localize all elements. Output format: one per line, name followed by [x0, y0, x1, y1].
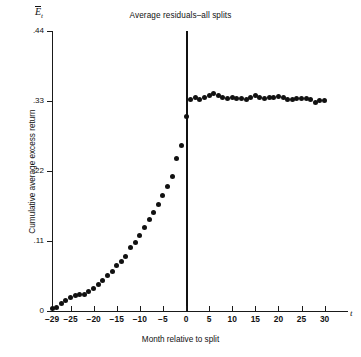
- chart-title: Average residuals–all splits: [0, 11, 361, 20]
- chart-figure: Average residuals–all splits Et 0.11.22.…: [0, 0, 361, 357]
- data-point: [147, 217, 152, 222]
- data-point: [170, 174, 175, 179]
- y-tick-label: .44: [20, 26, 44, 35]
- x-tick-mark: [302, 306, 303, 312]
- data-point: [137, 233, 142, 238]
- data-point: [128, 245, 133, 250]
- x-tick-mark: [71, 306, 72, 312]
- split-event-vertical-line: [186, 31, 188, 312]
- x-axis-line: [52, 311, 348, 312]
- data-point: [91, 286, 96, 291]
- data-point: [179, 143, 184, 148]
- data-point: [123, 254, 128, 259]
- x-tick-mark: [255, 306, 256, 312]
- y-tick-mark: [47, 241, 53, 242]
- x-tick-mark: [186, 306, 187, 312]
- x-tick-mark: [117, 306, 118, 312]
- x-tick-mark: [209, 306, 210, 312]
- x-tick-label: 30: [310, 314, 340, 324]
- data-point: [105, 273, 110, 278]
- y-tick-mark: [47, 171, 53, 172]
- x-tick-mark: [163, 306, 164, 312]
- x-tick-mark: [232, 306, 233, 312]
- data-point: [133, 240, 138, 245]
- data-point: [110, 269, 115, 274]
- data-point: [174, 156, 179, 161]
- data-point: [119, 259, 124, 264]
- data-point: [151, 210, 156, 215]
- y-axis-symbol-subscript: t: [41, 12, 43, 20]
- data-point: [322, 98, 327, 103]
- data-point: [114, 263, 119, 268]
- x-axis-title: Month relative to split: [0, 335, 361, 344]
- x-tick-mark: [94, 306, 95, 312]
- y-tick-mark: [47, 31, 53, 32]
- x-tick-mark: [278, 306, 279, 312]
- data-point: [96, 282, 101, 287]
- x-axis-symbol: t: [350, 308, 353, 318]
- data-point: [156, 202, 161, 207]
- x-tick-mark: [140, 306, 141, 312]
- data-point: [160, 193, 165, 198]
- data-point: [54, 305, 59, 310]
- x-tick-mark: [325, 306, 326, 312]
- data-point: [100, 278, 105, 283]
- y-axis-title: Cumulative average excess return: [28, 72, 37, 272]
- data-point: [142, 225, 147, 230]
- data-point: [165, 184, 170, 189]
- y-tick-mark: [47, 101, 53, 102]
- data-point: [184, 114, 189, 119]
- y-axis-symbol: Et: [35, 6, 43, 20]
